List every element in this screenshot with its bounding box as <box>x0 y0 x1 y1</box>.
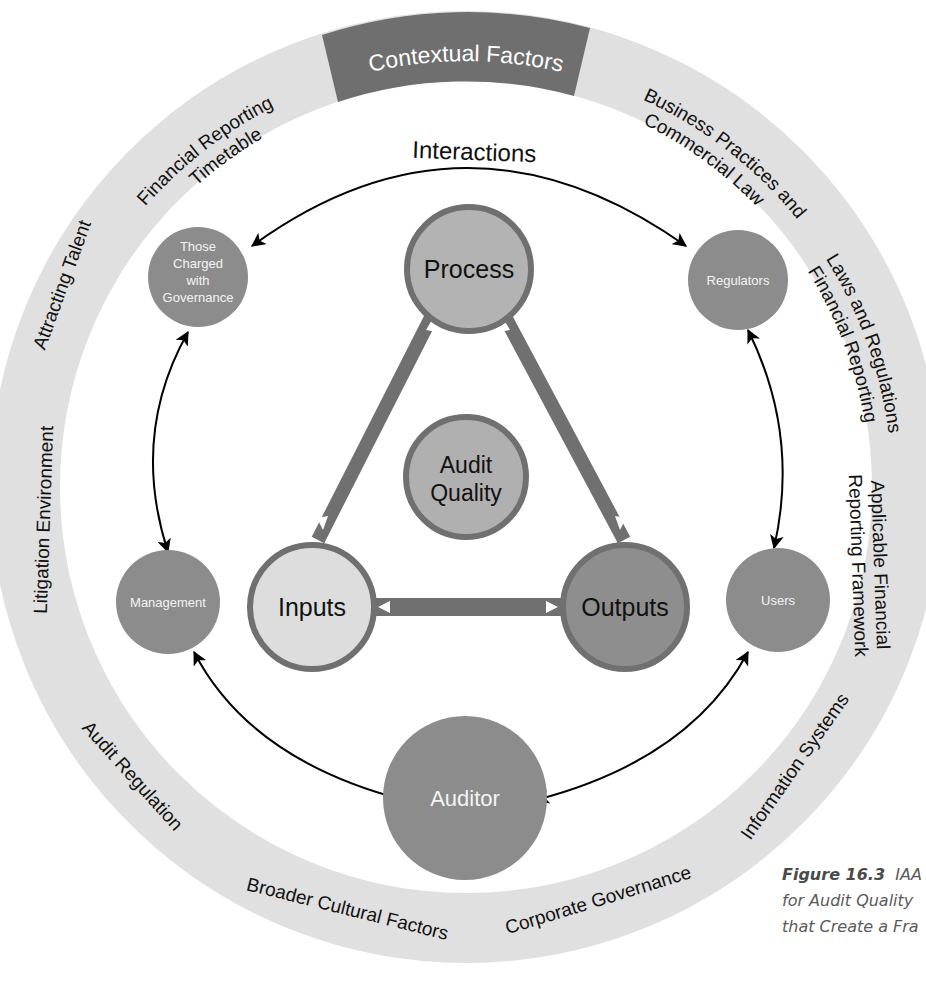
node-users: Users <box>726 548 830 652</box>
svg-text:Outputs: Outputs <box>581 593 669 621</box>
caption-line-2: for Audit Quality <box>782 888 926 914</box>
arrow-regulators-users <box>748 330 783 548</box>
caption-line-1-text: IAA <box>895 865 922 884</box>
arrow-users-auditor <box>536 652 748 800</box>
svg-text:Regulators: Regulators <box>707 273 770 288</box>
caption-line-3: that Create a Fra <box>782 914 926 940</box>
svg-text:Process: Process <box>424 255 514 283</box>
node-those-charged-with-governance: Those Charged with Governance <box>148 227 248 327</box>
node-process: Process <box>407 207 531 331</box>
svg-text:Inputs: Inputs <box>278 593 346 621</box>
caption-line-1: Figure 16.3 IAA <box>782 862 926 888</box>
node-regulators: Regulators <box>688 230 788 330</box>
svg-text:Management: Management <box>130 595 206 610</box>
figure-caption: Figure 16.3 IAA for Audit Quality that C… <box>782 862 926 940</box>
svg-text:Auditor: Auditor <box>430 786 500 811</box>
node-inputs: Inputs <box>250 545 374 669</box>
svg-text:Governance: Governance <box>163 290 234 305</box>
svg-text:Interactions: Interactions <box>412 136 537 167</box>
arrow-management-auditor <box>194 652 404 800</box>
audit-quality-framework-diagram: Contextual Factors Financial Reporting T… <box>0 0 926 981</box>
svg-text:Charged: Charged <box>173 256 223 271</box>
interactions-label: Interactions <box>412 136 537 167</box>
node-outputs: Outputs <box>563 545 687 669</box>
arrow-tcwg-management <box>153 332 188 552</box>
caption-figure-label: Figure 16.3 <box>782 865 885 884</box>
svg-text:Quality: Quality <box>430 480 502 506</box>
svg-text:with: with <box>185 273 209 288</box>
node-auditor: Auditor <box>383 716 547 880</box>
factor-applicable-framework: Applicable Financial Reporting Framework <box>845 474 894 658</box>
node-audit-quality: Audit Quality <box>406 417 526 537</box>
svg-text:Users: Users <box>761 593 795 608</box>
svg-text:Audit: Audit <box>440 452 493 478</box>
node-management: Management <box>116 550 220 654</box>
svg-text:Those: Those <box>180 239 216 254</box>
